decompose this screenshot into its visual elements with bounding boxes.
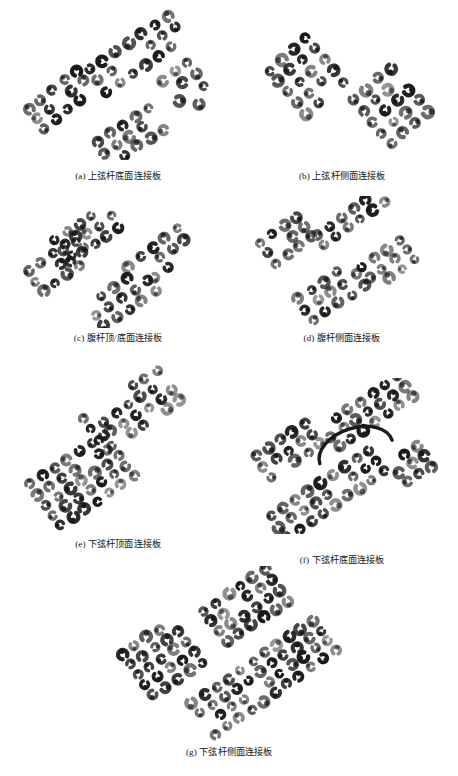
connection-plate-diagram-g: [104, 566, 354, 746]
panel-caption-c: (c) 腹杆顶/底面连接板: [12, 332, 224, 344]
bolt-hole-group-lower-array: [267, 447, 388, 534]
bolt-hole-group-mid-left-array: [251, 420, 324, 481]
connection-plate-diagram-d: [236, 196, 448, 328]
panel-caption-d: (d) 腹杆侧面连接板: [236, 332, 448, 344]
bolt-hole-group-right-band: [157, 58, 207, 110]
bolt-hole-group-lower-array: [26, 431, 139, 528]
figure-panel-b: (b) 上弦杆侧面连接板: [236, 8, 448, 186]
figure-panel-g: (g) 下弦杆侧面连接板: [104, 566, 354, 762]
bolt-hole-group-bottom-array: [186, 658, 280, 739]
bolt-hole-group-upper-left-cluster: [257, 213, 316, 267]
bolt-hole-group-lower-band: [293, 268, 369, 324]
figure-sheet: (a) 上弦杆底面连接板(b) 上弦杆侧面连接板(c) 腹杆顶/底面连接板(d)…: [0, 0, 458, 776]
connection-plate-diagram-c: [12, 196, 224, 328]
bolt-hole-group-upper-right-cluster: [313, 196, 389, 249]
figure-panel-d: (d) 腹杆侧面连接板: [236, 196, 448, 348]
figure-panel-a: (a) 上弦杆底面连接板: [12, 8, 224, 186]
bolt-hole-group-right-band: [123, 225, 188, 283]
figure-panel-c: (c) 腹杆顶/底面连接板: [12, 196, 224, 348]
bolt-hole-group-lower-band: [94, 105, 167, 160]
bolt-hole-group-right-array: [393, 442, 436, 486]
panel-caption-e: (e) 下弦杆顶面连接板: [12, 538, 224, 550]
bolt-hole-group-lower-band: [93, 273, 160, 328]
bolt-hole-group-left-array: [118, 626, 207, 700]
panel-caption-f: (f) 下弦杆底面连接板: [236, 554, 448, 566]
bolt-hole-group-right-array: [261, 617, 341, 687]
bolt-hole-group-left-band: [24, 231, 87, 295]
connection-plate-diagram-b: [236, 8, 448, 160]
bolt-hole-group-upper-array: [327, 378, 417, 452]
bolt-hole-group-left-array: [265, 34, 347, 119]
bolt-hole-group-upper-left-cluster: [51, 212, 123, 266]
connection-plate-diagram-f: [236, 378, 448, 534]
panel-caption-g: (g) 下弦杆侧面连接板: [104, 746, 354, 758]
figure-panel-e: (e) 下弦杆顶面连接板: [12, 362, 224, 554]
bolt-hole-group-right-array: [349, 65, 434, 148]
bolt-hole-group-left-band: [25, 65, 88, 132]
panel-caption-b: (b) 上弦杆侧面连接板: [236, 170, 448, 182]
connection-plate-diagram-e: [12, 362, 224, 534]
figure-panel-f: (f) 下弦杆底面连接板: [236, 378, 448, 570]
bolt-hole-group-right-band: [358, 236, 418, 282]
bolt-hole-group-top-array: [200, 566, 292, 647]
panel-caption-a: (a) 上弦杆底面连接板: [12, 170, 224, 182]
connection-plate-diagram-a: [12, 8, 224, 160]
